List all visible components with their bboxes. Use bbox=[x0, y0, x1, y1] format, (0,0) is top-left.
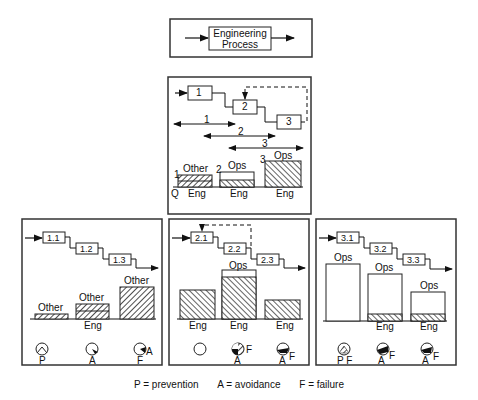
p2-step-3: 2.3 bbox=[261, 255, 274, 265]
p3-pie3-a: A bbox=[422, 356, 429, 366]
overview-bar1-num: 1 bbox=[174, 170, 180, 180]
p2-bar2-bottom: Eng bbox=[230, 321, 248, 331]
p3-bar3-bottom: Eng bbox=[420, 322, 438, 332]
p3-pie2-a: A bbox=[378, 356, 385, 366]
p3-bar1-top: Ops bbox=[334, 253, 352, 263]
p3-bar2-bottom: Eng bbox=[376, 322, 394, 332]
overview-range-3: 3 bbox=[262, 139, 268, 149]
p1-pie2-a: A bbox=[89, 356, 96, 366]
overview-range-2: 2 bbox=[238, 127, 244, 137]
p1-pie1-p: P bbox=[39, 356, 46, 366]
overview-bar2-bottom: Eng bbox=[230, 189, 248, 199]
p1-bar3-top: Other bbox=[124, 276, 149, 286]
legend: P = prevention A = avoidance F = failure bbox=[0, 379, 478, 390]
p3-pie2-f: F bbox=[389, 351, 395, 361]
p2-pie3-a: A bbox=[279, 356, 286, 366]
p3-bar2-top: Ops bbox=[375, 263, 393, 273]
diagram-canvas bbox=[0, 0, 478, 400]
p1-pie3-f: F bbox=[137, 356, 143, 366]
overview-bar1-bottom: Eng bbox=[188, 189, 206, 199]
p3-bar3-top: Ops bbox=[420, 281, 438, 291]
p1-step-1: 1.1 bbox=[47, 233, 60, 243]
p3-step-3: 3.3 bbox=[407, 255, 420, 265]
overview-step-1: 1 bbox=[196, 88, 202, 98]
p1-pie3-a: A bbox=[146, 347, 153, 357]
overview-step-2: 2 bbox=[242, 102, 248, 112]
overview-bar3-bottom: Eng bbox=[276, 189, 294, 199]
p1-bar1-top: Other bbox=[38, 303, 63, 313]
p1-step-3: 1.3 bbox=[113, 255, 126, 265]
overview-bar2-num: 2 bbox=[216, 165, 222, 175]
p2-step-2: 2.2 bbox=[228, 244, 241, 254]
p2-bar2-top: Ops bbox=[229, 261, 247, 271]
p3-step-1: 3.1 bbox=[341, 233, 354, 243]
p1-step-2: 1.2 bbox=[80, 244, 93, 254]
p2-bar3-bottom: Eng bbox=[276, 321, 294, 331]
p3-pie1-pf: P F bbox=[337, 356, 352, 366]
legend-prevention: P = prevention bbox=[134, 379, 199, 390]
p2-bar1-bottom: Eng bbox=[189, 321, 207, 331]
p3-pie3-f: F bbox=[433, 352, 439, 362]
p2-pie2-f: F bbox=[246, 345, 252, 355]
process-line2: Process bbox=[222, 39, 258, 50]
overview-bar3-num: 3 bbox=[260, 155, 266, 165]
p1-axis-eng: Eng bbox=[84, 321, 102, 331]
p2-pie2-a: A bbox=[234, 356, 241, 366]
overview-axis-q: Q bbox=[171, 189, 179, 199]
p1-bar2-top: Other bbox=[79, 293, 104, 303]
legend-failure: F = failure bbox=[299, 379, 344, 390]
p2-pie3-f: F bbox=[289, 352, 295, 362]
legend-avoidance: A = avoidance bbox=[217, 379, 280, 390]
overview-bar1-top: Other bbox=[183, 164, 208, 174]
overview-bar2-top: Ops bbox=[228, 161, 246, 171]
process-line1: Engineering bbox=[213, 28, 266, 39]
engineering-process-label: Engineering Process bbox=[209, 28, 271, 50]
overview-range-1: 1 bbox=[204, 115, 210, 125]
p3-step-2: 3.2 bbox=[374, 244, 387, 254]
p2-step-1: 2.1 bbox=[195, 233, 208, 243]
overview-step-3: 3 bbox=[286, 117, 292, 127]
overview-bar3-top: Ops bbox=[274, 151, 292, 161]
